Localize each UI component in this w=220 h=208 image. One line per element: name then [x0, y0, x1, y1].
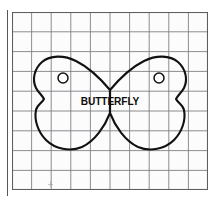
- left-margin-rule: [7, 10, 8, 196]
- pattern-sheet: BUTTERFLY: [0, 0, 220, 208]
- pencil-tick-mark: [48, 181, 53, 187]
- butterfly-label: BUTTERFLY: [13, 95, 207, 108]
